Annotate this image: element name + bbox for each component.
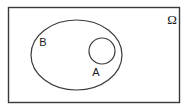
set-b-label: B (39, 36, 46, 48)
universal-set-rectangle (9, 8, 180, 103)
venn-diagram-svg: Ω B A (0, 0, 189, 112)
set-a-circle (89, 38, 115, 64)
set-b-ellipse (31, 20, 122, 90)
venn-diagram-canvas: Ω B A (0, 0, 189, 112)
universal-set-label: Ω (167, 12, 177, 27)
set-a-label: A (92, 66, 100, 78)
